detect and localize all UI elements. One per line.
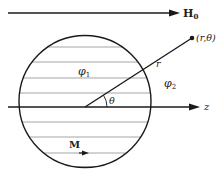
radius-label: r	[156, 58, 162, 69]
point-dot	[190, 36, 195, 41]
field-arrow	[8, 10, 180, 17]
magnetized-sphere-diagram: H0 z (r,θ) r θ φ1 φ2 M	[0, 0, 224, 183]
sphere-outline	[19, 36, 151, 168]
angle-label: θ	[109, 95, 115, 106]
radius-line	[85, 38, 192, 107]
magnetization-arrow	[79, 151, 89, 156]
z-axis-label: z	[203, 101, 210, 112]
outside-potential-label: φ2	[164, 77, 176, 91]
point-label: (r,θ)	[196, 32, 216, 43]
angle-arc	[104, 95, 108, 107]
magnetization-label: M	[69, 139, 80, 150]
inside-potential-label: φ1	[78, 65, 90, 79]
field-label: H0	[183, 7, 198, 21]
z-axis	[8, 104, 200, 111]
